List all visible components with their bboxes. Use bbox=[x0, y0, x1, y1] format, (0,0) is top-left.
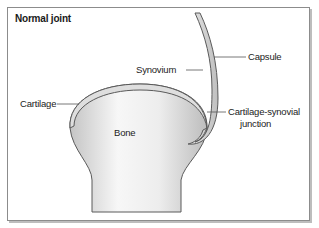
capsule-label: Capsule bbox=[248, 51, 281, 62]
junction-label-line1: Cartilage-synovial bbox=[228, 106, 300, 117]
cartilage-label: Cartilage bbox=[20, 98, 56, 109]
figure-title: Normal joint bbox=[15, 13, 71, 24]
junction-label-line2: junction bbox=[240, 118, 271, 129]
synovium-label: Synovium bbox=[136, 64, 176, 75]
bone-shape bbox=[70, 84, 207, 212]
bone-label: Bone bbox=[114, 127, 135, 138]
